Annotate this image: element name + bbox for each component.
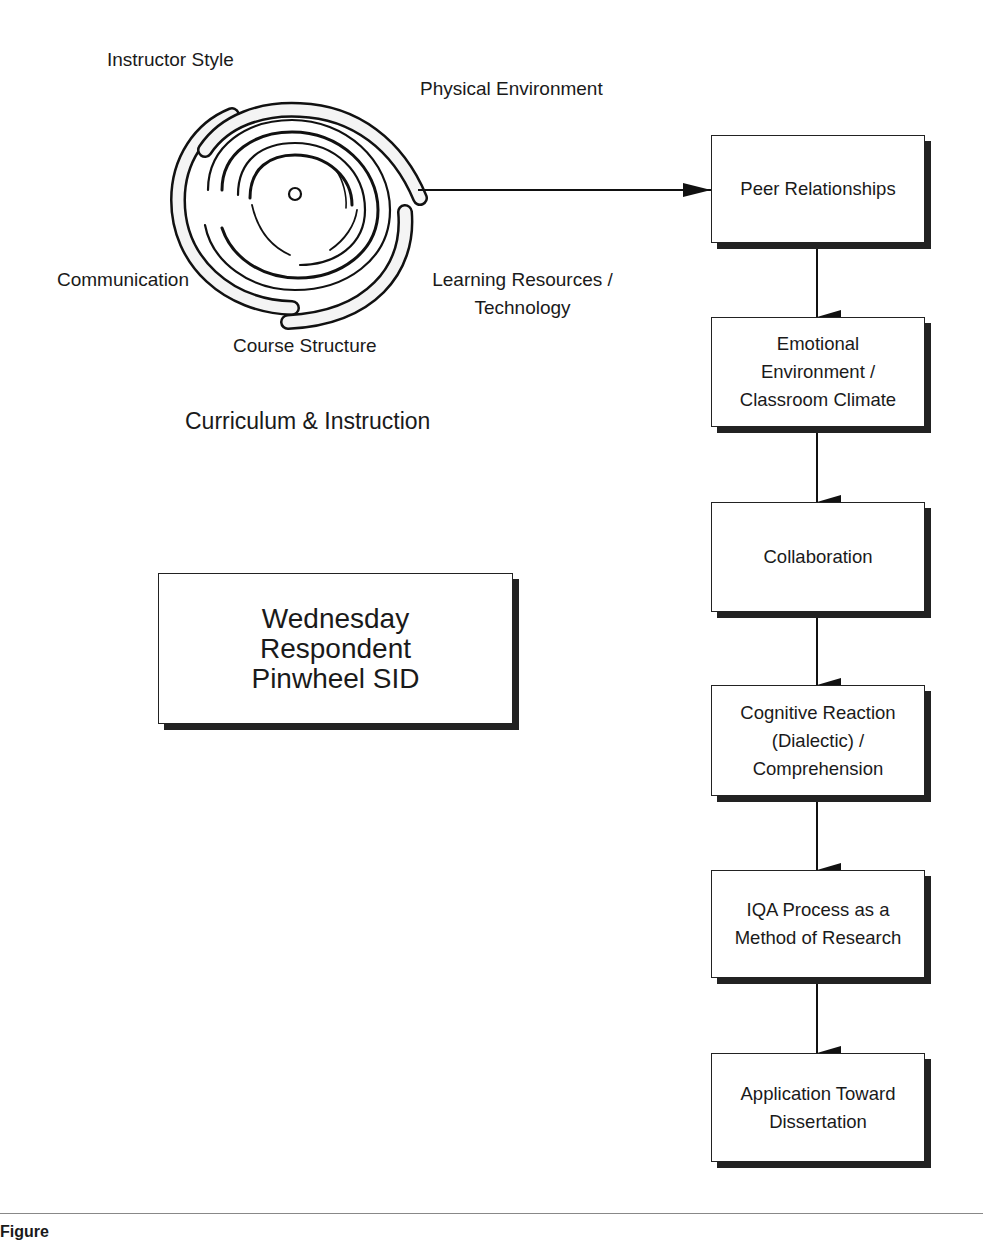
flow-box-emotional-environment: Emotional Environment / Classroom Climat… [711, 317, 925, 427]
label-instructor-style: Instructor Style [107, 46, 234, 74]
flow-box-application-dissertation: Application Toward Dissertation [711, 1053, 925, 1162]
flow-box-collaboration: Collaboration [711, 502, 925, 612]
title-box: Wednesday Respondent Pinwheel SID [158, 573, 513, 724]
flow-box-label: Emotional Environment / Classroom Climat… [740, 330, 896, 414]
label-learning-resources: Learning Resources / Technology [410, 266, 635, 322]
flow-box-label: Peer Relationships [740, 175, 895, 203]
flow-box-label: Collaboration [763, 543, 872, 571]
label-communication: Communication [57, 266, 189, 294]
flow-box-iqa-process: IQA Process as a Method of Research [711, 870, 925, 978]
pinwheel-spiral-icon [178, 110, 420, 322]
flow-box-peer-relationships: Peer Relationships [711, 135, 925, 243]
flow-box-label: Cognitive Reaction (Dialectic) / Compreh… [740, 699, 895, 783]
flow-box-label: IQA Process as a Method of Research [735, 896, 902, 952]
group-label-curriculum-instruction: Curriculum & Instruction [185, 408, 430, 435]
label-course-structure: Course Structure [233, 332, 377, 360]
flow-box-cognitive-reaction: Cognitive Reaction (Dialectic) / Compreh… [711, 685, 925, 796]
flow-box-label: Application Toward Dissertation [741, 1080, 896, 1136]
label-physical-environment: Physical Environment [420, 75, 603, 103]
figure-caption: Figure [0, 1222, 49, 1242]
title-box-text: Wednesday Respondent Pinwheel SID [251, 604, 419, 694]
caption-divider [0, 1213, 983, 1214]
